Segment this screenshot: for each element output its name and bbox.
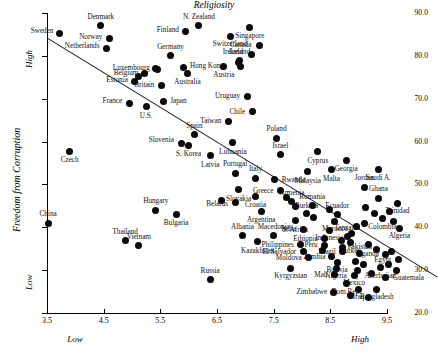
data-point-label: Singapore	[235, 33, 264, 41]
x-tick-mark	[330, 309, 331, 314]
data-point[interactable]	[152, 207, 159, 214]
data-point[interactable]	[375, 195, 382, 202]
data-point[interactable]	[195, 22, 202, 29]
data-point[interactable]	[375, 166, 382, 173]
data-point[interactable]	[270, 232, 277, 239]
data-point[interactable]	[232, 199, 239, 206]
data-point[interactable]	[207, 152, 214, 159]
data-point-label: Ghana	[369, 186, 388, 194]
data-point[interactable]	[395, 256, 402, 263]
data-point[interactable]	[304, 168, 311, 175]
data-point[interactable]	[248, 51, 255, 58]
data-point[interactable]	[45, 220, 52, 227]
data-point[interactable]	[252, 193, 259, 200]
data-point[interactable]	[167, 52, 174, 59]
data-point[interactable]	[160, 98, 167, 105]
data-point-label: Bangladesh	[360, 294, 394, 302]
data-point[interactable]	[351, 272, 358, 279]
data-point[interactable]	[173, 211, 180, 218]
data-point[interactable]	[143, 103, 150, 110]
y-axis-line	[47, 13, 48, 314]
data-point[interactable]	[184, 70, 191, 77]
data-point[interactable]	[360, 261, 367, 268]
data-point[interactable]	[182, 28, 189, 35]
data-point[interactable]	[287, 265, 294, 272]
data-point[interactable]	[232, 170, 239, 177]
data-point-label: Slovenia	[149, 137, 174, 145]
y-tick-mark	[42, 270, 47, 271]
data-point-label: Zimbabwe	[296, 289, 327, 297]
data-point-label: Norway	[79, 34, 102, 42]
data-point[interactable]	[256, 42, 263, 49]
data-point[interactable]	[185, 142, 192, 149]
data-point[interactable]	[377, 264, 384, 271]
data-point-label: Kyrgyzstan	[274, 273, 307, 281]
data-point[interactable]	[271, 176, 278, 183]
data-point[interactable]	[158, 82, 165, 89]
data-point-label: Jordan	[355, 175, 374, 183]
data-point[interactable]	[292, 217, 299, 224]
data-point[interactable]	[334, 211, 341, 218]
data-point[interactable]	[273, 135, 280, 142]
data-point-label: Ecuador	[325, 203, 349, 211]
trend-line	[48, 38, 438, 278]
data-point-label: Taiwan	[200, 118, 221, 126]
data-point[interactable]	[355, 286, 362, 293]
data-point[interactable]	[220, 63, 227, 70]
data-point[interactable]	[254, 238, 261, 245]
data-point[interactable]	[103, 45, 110, 52]
data-point[interactable]	[227, 33, 234, 40]
data-point[interactable]	[135, 242, 142, 249]
data-point[interactable]	[396, 225, 403, 232]
data-point[interactable]	[303, 210, 310, 217]
data-point[interactable]	[361, 184, 368, 191]
data-point[interactable]	[249, 108, 256, 115]
data-point[interactable]	[258, 208, 265, 215]
data-point[interactable]	[371, 210, 378, 217]
data-point[interactable]	[106, 35, 113, 42]
data-point[interactable]	[207, 276, 214, 283]
x-tick-mark	[160, 309, 161, 314]
data-point[interactable]	[97, 22, 104, 29]
data-point[interactable]	[343, 157, 350, 164]
data-point[interactable]	[373, 286, 380, 293]
data-point[interactable]	[126, 100, 133, 107]
data-point[interactable]	[326, 227, 333, 234]
data-point[interactable]	[66, 148, 73, 155]
data-point[interactable]	[191, 131, 198, 138]
data-point-label: Poland	[267, 126, 287, 134]
data-point[interactable]	[394, 200, 401, 207]
data-point-label: Denmark	[87, 14, 114, 22]
data-point[interactable]	[252, 175, 259, 182]
data-point[interactable]	[56, 30, 63, 37]
data-point[interactable]	[244, 93, 251, 100]
data-point[interactable]	[361, 220, 368, 227]
data-point[interactable]	[388, 248, 395, 255]
data-point[interactable]	[310, 214, 317, 221]
data-point-label: Romania	[299, 194, 325, 202]
y-tick-label: 80.0	[392, 52, 428, 60]
data-point[interactable]	[379, 215, 386, 222]
data-point[interactable]	[141, 70, 148, 77]
data-point-label: Hungary	[143, 198, 168, 206]
data-point-label: Guatemala	[393, 275, 424, 283]
data-point-label: Czech	[61, 157, 79, 165]
data-point[interactable]	[352, 258, 359, 265]
data-point[interactable]	[362, 204, 369, 211]
data-point-label: Algeria	[389, 233, 411, 241]
data-point[interactable]	[235, 186, 242, 193]
data-point-label: Portugal	[223, 161, 247, 169]
data-point[interactable]	[229, 139, 236, 146]
data-point[interactable]	[330, 289, 337, 296]
data-point-label: Ireland	[223, 49, 243, 57]
x-tick-label: 8.5	[315, 316, 345, 325]
data-point[interactable]	[314, 148, 321, 155]
data-point[interactable]	[277, 151, 284, 158]
data-point[interactable]	[239, 232, 246, 239]
data-point[interactable]	[246, 24, 253, 31]
data-point-label: Sweden	[31, 28, 54, 36]
data-point[interactable]	[300, 226, 307, 233]
data-point[interactable]	[382, 274, 389, 281]
data-point-label: France	[103, 98, 123, 106]
data-point[interactable]	[225, 118, 232, 125]
